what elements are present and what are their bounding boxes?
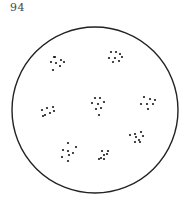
dot	[97, 103, 99, 105]
dot	[149, 98, 151, 100]
dot	[98, 114, 100, 116]
dot	[63, 61, 65, 63]
dot	[115, 51, 117, 53]
dot	[103, 101, 105, 103]
dot	[55, 62, 57, 64]
dot-clusters	[41, 51, 156, 162]
dot	[108, 57, 110, 59]
dot-cluster-lower-left	[61, 142, 77, 162]
dot-cluster-lower-center	[98, 150, 109, 160]
dot	[94, 97, 96, 99]
dot	[152, 103, 154, 105]
dot	[134, 133, 136, 135]
dot	[49, 112, 51, 114]
dot	[106, 153, 108, 155]
dot	[119, 53, 121, 55]
dot	[67, 142, 69, 144]
dot	[68, 154, 70, 156]
dot	[50, 61, 52, 63]
dot	[99, 97, 101, 99]
dot	[101, 150, 103, 152]
dot	[118, 60, 120, 62]
dot	[61, 156, 63, 158]
dot	[103, 158, 105, 160]
dot-cluster-upper-left	[50, 56, 65, 71]
outer-circle	[12, 27, 178, 193]
dot	[44, 114, 46, 116]
dot	[46, 107, 48, 109]
dot	[103, 154, 105, 156]
dot	[139, 141, 141, 143]
dot	[110, 51, 112, 53]
dot	[53, 110, 55, 112]
dot	[142, 135, 144, 137]
dot-cluster-middle-right	[140, 96, 156, 110]
dot	[135, 136, 137, 138]
dot-cluster-upper-right	[108, 51, 123, 63]
dot-cluster-center	[91, 97, 105, 116]
dot	[129, 134, 131, 136]
dot	[41, 109, 43, 111]
dot	[146, 103, 148, 105]
dot	[147, 108, 149, 110]
dot	[140, 103, 142, 105]
dot	[100, 157, 102, 159]
dot	[59, 65, 61, 67]
dot	[62, 149, 64, 151]
dot	[52, 69, 54, 71]
dot	[154, 99, 156, 101]
dot	[67, 150, 69, 152]
dot-cluster-figure	[0, 0, 190, 203]
dot	[134, 141, 136, 143]
dot	[75, 146, 77, 148]
dot	[95, 108, 97, 110]
dot	[112, 61, 114, 63]
dot	[121, 56, 123, 58]
dot	[140, 131, 142, 133]
dot	[138, 139, 140, 141]
dot	[60, 59, 62, 61]
dot	[72, 152, 74, 154]
dot	[107, 150, 109, 152]
dot	[91, 102, 93, 104]
dot	[67, 160, 69, 162]
dot	[52, 106, 54, 108]
dot	[42, 115, 44, 117]
dot-cluster-lower-right	[129, 131, 144, 143]
dot	[100, 107, 102, 109]
dot	[98, 158, 100, 160]
dot	[54, 56, 56, 58]
dot	[114, 57, 116, 59]
dot	[143, 96, 145, 98]
dot-cluster-middle-left	[41, 106, 55, 117]
